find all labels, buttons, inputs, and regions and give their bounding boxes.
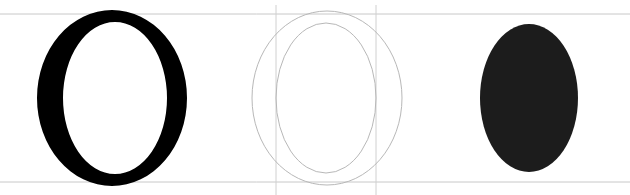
- filled-o-glyph: [37, 10, 187, 186]
- filled-oval-shape: [480, 24, 578, 172]
- glyph-diagram: [0, 0, 630, 195]
- diagram-canvas: [0, 0, 630, 195]
- outline-o-outer-contour: [252, 11, 402, 185]
- outline-o-inner-contour: [276, 23, 376, 173]
